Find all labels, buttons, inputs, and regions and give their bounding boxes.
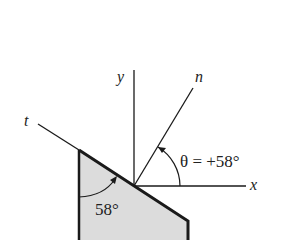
theta-arc: [158, 147, 180, 186]
inner-angle-label: 58°: [95, 200, 119, 219]
t-axis-label: t: [24, 112, 29, 129]
y-axis-label: y: [115, 68, 125, 86]
theta-annotation: θ = +58°: [180, 152, 240, 171]
x-axis-label: x: [249, 176, 257, 193]
t-axis: [38, 124, 79, 150]
stress-element-diagram: y n t x θ = +58° 58°: [0, 0, 305, 240]
n-axis-label: n: [195, 68, 203, 85]
n-axis: [134, 88, 193, 186]
